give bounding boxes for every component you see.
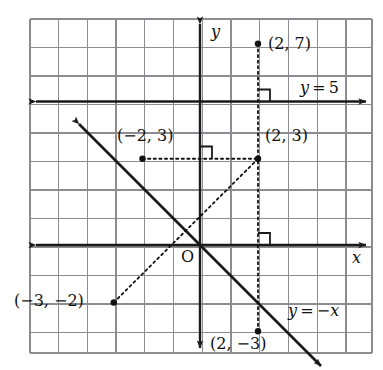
- point-label-neg3-neg2: (−3, −2): [14, 293, 84, 309]
- x-axis-label: x: [352, 250, 361, 266]
- ynegx-eq: =: [300, 301, 313, 320]
- y-axis-label: y: [211, 24, 220, 40]
- y5-rhs: 5: [329, 78, 339, 97]
- point-neg2-3: [139, 156, 145, 162]
- point-label-neg2-3: (−2, 3): [117, 128, 173, 144]
- point-label-2-3: (2, 3): [265, 128, 308, 144]
- y5-lhs: y: [300, 78, 309, 97]
- point-neg3-neg2: [111, 299, 117, 305]
- ynegx-rhs: −x: [317, 301, 339, 320]
- point-label-2-neg3: (2, −3): [210, 336, 266, 352]
- origin-label: O: [181, 249, 194, 265]
- diagram-stage: y x O (2, 7) (2, 3) (−2, 3) (−3, −2) (2,…: [0, 0, 383, 370]
- point-label-2-7: (2, 7): [268, 36, 311, 52]
- line-label-y-equals-negative-x: y = −x: [288, 303, 339, 319]
- y5-eq: =: [312, 78, 325, 97]
- point-2-3: [255, 156, 261, 162]
- ynegx-lhs: y: [288, 301, 297, 320]
- line-label-y-equals-5: y = 5: [300, 80, 339, 96]
- point-2-7: [255, 41, 261, 47]
